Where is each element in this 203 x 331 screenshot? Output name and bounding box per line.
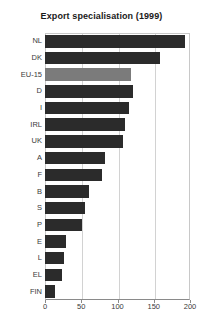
category-label-l: L [0,254,42,262]
category-label-b: B [0,188,42,196]
bar-i [45,102,129,115]
category-label-a: A [0,154,42,162]
x-tick-label-0: 0 [43,302,47,311]
bar-row [45,200,190,217]
bar-p [45,219,82,232]
bar-row [45,50,190,67]
bar-dk [45,52,160,65]
bar-series [45,33,190,300]
bar-irl [45,118,125,131]
category-label-el: EL [0,271,42,279]
category-label-p: P [0,221,42,229]
chart-title: Export specialisation (1999) [0,11,203,21]
x-tick-label-150: 150 [147,302,160,311]
bar-a [45,152,105,165]
bar-row [45,167,190,184]
bar-e [45,235,66,248]
bar-row [45,133,190,150]
category-label-f: F [0,171,42,179]
bar-row [45,100,190,117]
category-axis-labels: NLDKEU-15DIIRLUKAFBSPELELFIN [0,33,42,300]
bar-row [45,283,190,300]
bar-row [45,66,190,83]
category-label-irl: IRL [0,121,42,129]
x-tick-label-50: 50 [77,302,85,311]
bar-row [45,116,190,133]
bar-row [45,33,190,50]
bar-row [45,183,190,200]
bar-s [45,202,85,215]
bar-l [45,252,64,265]
bar-row [45,250,190,267]
bar-row [45,83,190,100]
category-label-d: D [0,87,42,95]
x-axis-tick-labels: 050100150200 [0,302,203,316]
bar-el [45,269,62,282]
bar-row [45,150,190,167]
bar-row [45,217,190,234]
bar-f [45,169,102,182]
category-label-e: E [0,238,42,246]
chart-container: Export specialisation (1999) NLDKEU-15DI… [0,0,203,331]
x-tick-label-200: 200 [184,302,197,311]
category-label-eu-15: EU-15 [0,71,42,79]
bar-uk [45,135,123,148]
category-label-dk: DK [0,54,42,62]
category-label-fin: FIN [0,288,42,296]
bar-row [45,267,190,284]
bar-eu-15 [45,68,131,81]
bar-fin [45,285,55,298]
bar-d [45,85,133,98]
bar-row [45,233,190,250]
bar-b [45,185,89,198]
category-label-s: S [0,204,42,212]
category-label-nl: NL [0,37,42,45]
category-label-uk: UK [0,137,42,145]
bar-nl [45,35,185,48]
category-label-i: I [0,104,42,112]
x-tick-label-100: 100 [111,302,124,311]
